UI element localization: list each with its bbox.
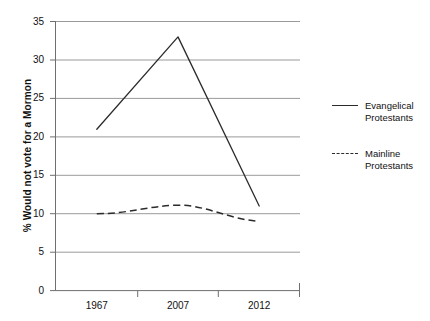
y-tick-label-30: 30 (18, 55, 44, 65)
legend-swatch-dashed-line (332, 153, 358, 156)
y-tick-marks (50, 22, 55, 291)
legend-label-evangelical-protestants: Evangelical Protestants (365, 100, 428, 123)
chart-figure: % Would not vote for a Mormon 35 30 25 2… (0, 0, 430, 321)
y-tick-label-25: 25 (18, 93, 44, 103)
legend-label-line-2: Protestants (365, 160, 428, 172)
x-tick-label-1967: 1967 (67, 301, 127, 311)
legend-item-evangelical-protestants: Evangelical Protestants (332, 100, 428, 123)
chart-legend: Evangelical Protestants Mainline Protest… (332, 100, 428, 196)
legend-swatch-solid-line (332, 105, 358, 108)
y-tick-label-10: 10 (18, 209, 44, 219)
x-tick-label-2012: 2012 (229, 301, 289, 311)
y-tick-label-0: 0 (18, 286, 44, 296)
legend-label-mainline-protestants: Mainline Protestants (365, 148, 428, 171)
y-tick-label-20: 20 (18, 132, 44, 142)
legend-item-mainline-protestants: Mainline Protestants (332, 148, 428, 171)
y-tick-label-35: 35 (18, 17, 44, 27)
y-tick-label-15: 15 (18, 170, 44, 180)
x-tick-marks (138, 291, 300, 297)
series-line-evangelical-protestants (97, 37, 259, 206)
legend-label-line-1: Evangelical (365, 100, 428, 112)
legend-label-line-1: Mainline (365, 148, 428, 160)
y-axis-title: % Would not vote for a Mormon (22, 51, 33, 261)
gridlines (55, 22, 300, 253)
legend-label-line-2: Protestants (365, 112, 428, 124)
x-tick-label-2007: 2007 (148, 301, 208, 311)
y-tick-label-5: 5 (18, 247, 44, 257)
